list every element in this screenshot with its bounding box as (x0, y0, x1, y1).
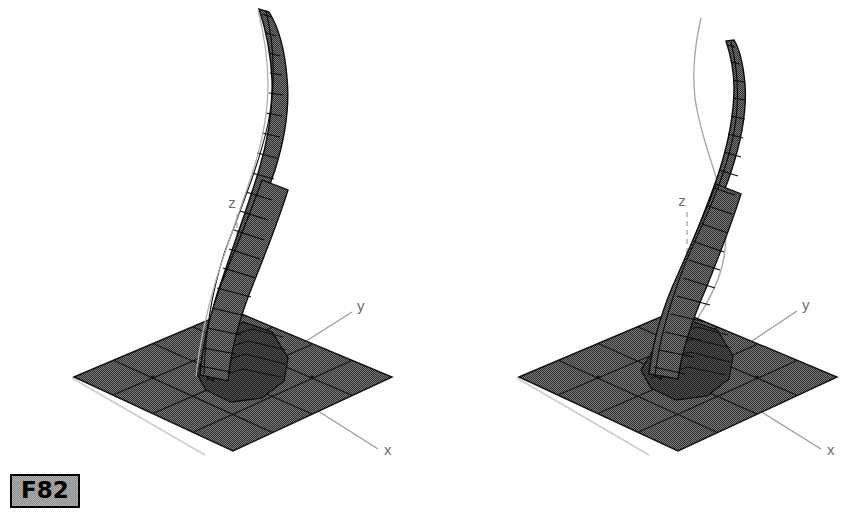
figure-root: z y x F82 (0, 0, 865, 524)
x-axis-label: x (827, 441, 835, 458)
figure-caption-label: F82 (21, 479, 69, 502)
z-axis-label: z (228, 194, 236, 211)
surface-plot-f82: z y x (0, 0, 432, 470)
surface-plot-f83: z y x (433, 0, 865, 470)
figure-caption-f82: F82 (10, 474, 80, 508)
y-axis-line (300, 312, 352, 345)
grid-node (596, 375, 599, 378)
grid-node (755, 375, 758, 378)
grid-node (310, 375, 313, 378)
plot-panel-f82: z y x F82 (0, 0, 432, 524)
x-axis-label: x (384, 441, 392, 458)
y-axis-label: y (357, 297, 365, 314)
z-axis-label: z (678, 192, 686, 209)
y-axis-line (746, 311, 797, 345)
plot-panel-f83: z y x F83 (433, 0, 865, 524)
surface-spike-f82 (196, 9, 288, 402)
grid-node (151, 375, 154, 378)
y-axis-label: y (802, 296, 810, 313)
